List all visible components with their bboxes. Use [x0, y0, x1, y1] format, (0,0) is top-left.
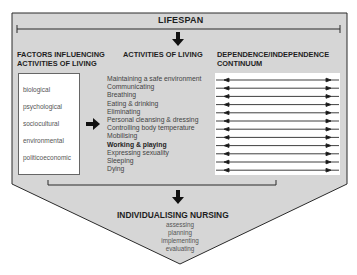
double-arrow-icon	[216, 95, 339, 99]
factor-item: politicoeconomic	[23, 154, 71, 161]
nursing-step: implementing	[150, 237, 210, 245]
activities-list: Maintaining a safe environment Communica…	[107, 75, 201, 173]
factor-item: psychological	[23, 103, 62, 110]
double-arrow-icon	[216, 168, 339, 172]
factors-box: biological psychological sociocultural e…	[18, 73, 80, 175]
nursing-title: INDIVIDUALISING NURSING	[117, 210, 229, 220]
double-arrow-icon	[216, 160, 339, 164]
activity-item: Sleeping	[107, 157, 201, 165]
activity-item: Controlling body temperature	[107, 124, 201, 132]
activity-item-highlighted: Working & playing	[107, 141, 201, 149]
lifespan-label: LIFESPAN	[158, 15, 203, 25]
double-arrow-icon	[216, 136, 339, 140]
nursing-step: planning	[150, 229, 210, 237]
activity-item: Eating & drinking	[107, 100, 201, 108]
factors-heading-line2: ACTIVITIES OF LIVING	[17, 59, 105, 68]
factors-heading: FACTORS INFLUENCING ACTIVITIES OF LIVING	[17, 50, 105, 68]
continuum-heading: DEPENDENCE/INDEPENDENCE CONTINUUM	[217, 50, 329, 68]
activity-item: Expressing sexuality	[107, 149, 201, 157]
nursing-steps: assessing planning implementing evaluati…	[150, 221, 210, 253]
factor-item: biological	[23, 86, 50, 93]
double-arrow-icon	[216, 127, 339, 131]
activity-item: Personal cleansing & dressing	[107, 116, 201, 124]
nursing-step: evaluating	[150, 245, 210, 253]
activity-item: Dying	[107, 165, 201, 173]
continuum-heading-line2: CONTINUUM	[217, 59, 329, 68]
continuum-arrows	[215, 73, 340, 175]
continuum-heading-line1: DEPENDENCE/INDEPENDENCE	[217, 50, 329, 59]
double-arrow-icon	[216, 144, 339, 148]
activities-heading: ACTIVITIES OF LIVING	[123, 50, 203, 59]
double-arrow-icon	[216, 86, 339, 90]
activity-item: Breathing	[107, 91, 201, 99]
factor-item: sociocultural	[23, 120, 59, 127]
activity-item: Mobilising	[107, 132, 201, 140]
double-arrow-icon	[216, 103, 339, 107]
double-arrow-icon	[216, 152, 339, 156]
double-arrow-icon	[216, 119, 339, 123]
continuum-panel	[215, 73, 340, 175]
activity-item: Communicating	[107, 83, 201, 91]
factors-heading-line1: FACTORS INFLUENCING	[17, 50, 105, 59]
activity-item: Eliminating	[107, 108, 201, 116]
double-arrow-icon	[216, 111, 339, 115]
factor-item: environmental	[23, 137, 64, 144]
activity-item: Maintaining a safe environment	[107, 75, 201, 83]
nursing-step: assessing	[150, 221, 210, 229]
double-arrow-icon	[216, 78, 339, 82]
